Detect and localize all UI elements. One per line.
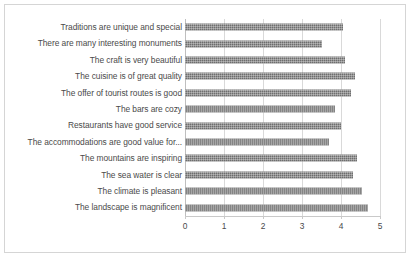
y-axis-tick-label: There are many interesting monuments <box>38 39 182 47</box>
x-axis-tick-label: 4 <box>331 221 351 231</box>
x-axis-line <box>185 216 381 217</box>
bar <box>185 73 355 80</box>
y-axis-label-row: The sea water is clear <box>11 167 182 183</box>
y-axis-label-row: The mountains are inspiring <box>11 150 182 166</box>
y-axis-tick-label: The craft is very beautiful <box>90 56 182 64</box>
y-axis-tick-label: The bars are cozy <box>116 105 182 113</box>
y-axis-label-row: The landscape is magnificent <box>11 199 182 215</box>
x-axis-tick-label: 0 <box>175 221 195 231</box>
y-axis-tick-label: The climate is pleasant <box>97 187 182 195</box>
bar <box>185 204 368 211</box>
bar <box>185 122 341 129</box>
bar <box>185 106 335 113</box>
y-axis-tick-label: The mountains are inspiring <box>80 154 182 162</box>
x-axis-tick-mark <box>380 216 381 219</box>
y-axis-tick-label: Restaurants have good service <box>68 121 182 129</box>
bar-row <box>185 101 380 117</box>
bar-row <box>185 68 380 84</box>
y-axis-tick-label: The sea water is clear <box>101 171 182 179</box>
bar-row <box>185 85 380 101</box>
bar <box>185 24 343 31</box>
y-axis-tick-label: The landscape is magnificent <box>75 203 182 211</box>
bar-row <box>185 183 380 199</box>
x-axis-tick-mark <box>341 216 342 219</box>
y-axis-label-row: Traditions are unique and special <box>11 19 182 35</box>
x-axis-tick-mark <box>224 216 225 219</box>
chart-container: Traditions are unique and special There … <box>4 4 406 253</box>
bar-row <box>185 199 380 215</box>
bar-row <box>185 134 380 150</box>
y-axis-tick-label: The cuisine is of great quality <box>75 72 182 80</box>
x-axis-tick-label: 2 <box>253 221 273 231</box>
bar-row <box>185 150 380 166</box>
y-axis-label-row: Restaurants have good service <box>11 117 182 133</box>
bar <box>185 188 362 195</box>
y-axis-label-row: The accommodations are good value for... <box>11 134 182 150</box>
x-axis-tick-label: 1 <box>214 221 234 231</box>
y-axis-tick-label: The offer of tourist routes is good <box>61 89 182 97</box>
bar-row <box>185 19 380 35</box>
bar-row <box>185 52 380 68</box>
bar <box>185 155 357 162</box>
y-axis-label-row: The craft is very beautiful <box>11 52 182 68</box>
x-axis-tick-label: 5 <box>370 221 390 231</box>
bar-row <box>185 117 380 133</box>
gridline-5 <box>380 19 381 216</box>
bar-rows <box>185 19 380 216</box>
bar <box>185 57 345 64</box>
x-axis-tick-mark <box>302 216 303 219</box>
bar <box>185 40 322 47</box>
bar-row <box>185 167 380 183</box>
y-axis-label-row: The cuisine is of great quality <box>11 68 182 84</box>
y-axis-category-labels: Traditions are unique and special There … <box>11 19 182 216</box>
plot-area <box>185 19 380 216</box>
x-axis-tick-mark <box>263 216 264 219</box>
y-axis-tick-label: The accommodations are good value for... <box>28 138 182 146</box>
x-axis-tick-label: 3 <box>292 221 312 231</box>
y-axis-label-row: There are many interesting monuments <box>11 35 182 51</box>
x-axis-tick-mark <box>185 216 186 219</box>
bar-row <box>185 35 380 51</box>
y-axis-label-row: The bars are cozy <box>11 101 182 117</box>
bar <box>185 139 329 146</box>
y-axis-label-row: The offer of tourist routes is good <box>11 85 182 101</box>
y-axis-label-row: The climate is pleasant <box>11 183 182 199</box>
bar <box>185 171 353 178</box>
y-axis-tick-label: Traditions are unique and special <box>61 23 182 31</box>
bar <box>185 89 351 96</box>
